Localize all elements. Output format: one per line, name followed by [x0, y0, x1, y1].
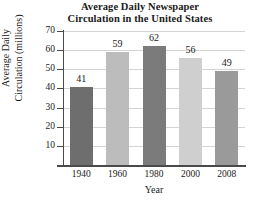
- bar[interactable]: [70, 87, 93, 165]
- y-axis-tick-label-wrap: 60: [33, 45, 55, 55]
- y-axis-tick-label-wrap: 10: [33, 141, 55, 151]
- chart-title: Average Daily Newspaper Circulation in t…: [40, 1, 240, 24]
- bar[interactable]: [215, 71, 238, 165]
- y-axis-tick-label-wrap: 30: [33, 103, 55, 113]
- plot-area: [63, 31, 245, 165]
- x-axis-line: [57, 165, 246, 167]
- x-axis-title: Year: [63, 184, 245, 195]
- bar-value-label: 49: [213, 58, 241, 68]
- bar-value-label: 56: [176, 45, 204, 55]
- y-axis-tick-label-wrap: 20: [33, 122, 55, 132]
- bar[interactable]: [143, 46, 166, 165]
- bar-value-label: 41: [67, 74, 95, 84]
- x-axis-tick-label: 1960: [100, 169, 136, 179]
- bar[interactable]: [106, 52, 129, 165]
- y-axis-tick-label-wrap: 40: [33, 83, 55, 93]
- y-axis-title-line-1: Average Daily: [0, 0, 13, 124]
- bar[interactable]: [179, 58, 202, 165]
- y-axis-tick-label: 40: [35, 83, 55, 93]
- y-axis-title: Average Daily Circulation (millions): [0, 0, 28, 124]
- y-axis-tick-label: 70: [35, 26, 55, 36]
- y-axis-tick-label: 60: [35, 45, 55, 55]
- y-axis-tick-label: 10: [35, 141, 55, 151]
- y-axis-tick-label-wrap: 70: [33, 26, 55, 36]
- y-axis-tick-label-wrap: 50: [33, 64, 55, 74]
- y-axis-tick-label: 50: [35, 64, 55, 74]
- x-axis-tick-label: 2000: [172, 169, 208, 179]
- y-axis-title-line-2: Circulation (millions): [13, 0, 26, 124]
- x-axis-tick-label: 1940: [63, 169, 99, 179]
- chart-title-line-2: Circulation in the United States: [40, 13, 240, 25]
- x-axis-tick-label: 2008: [209, 169, 245, 179]
- y-axis-tick-label: 20: [35, 122, 55, 132]
- bar-chart-figure: Average Daily Newspaper Circulation in t…: [0, 0, 254, 207]
- chart-title-line-1: Average Daily Newspaper: [40, 1, 240, 13]
- y-axis-tick-label: 30: [35, 103, 55, 113]
- x-axis-tick-label: 1980: [136, 169, 172, 179]
- bar-value-label: 59: [104, 39, 132, 49]
- bar-value-label: 62: [140, 33, 168, 43]
